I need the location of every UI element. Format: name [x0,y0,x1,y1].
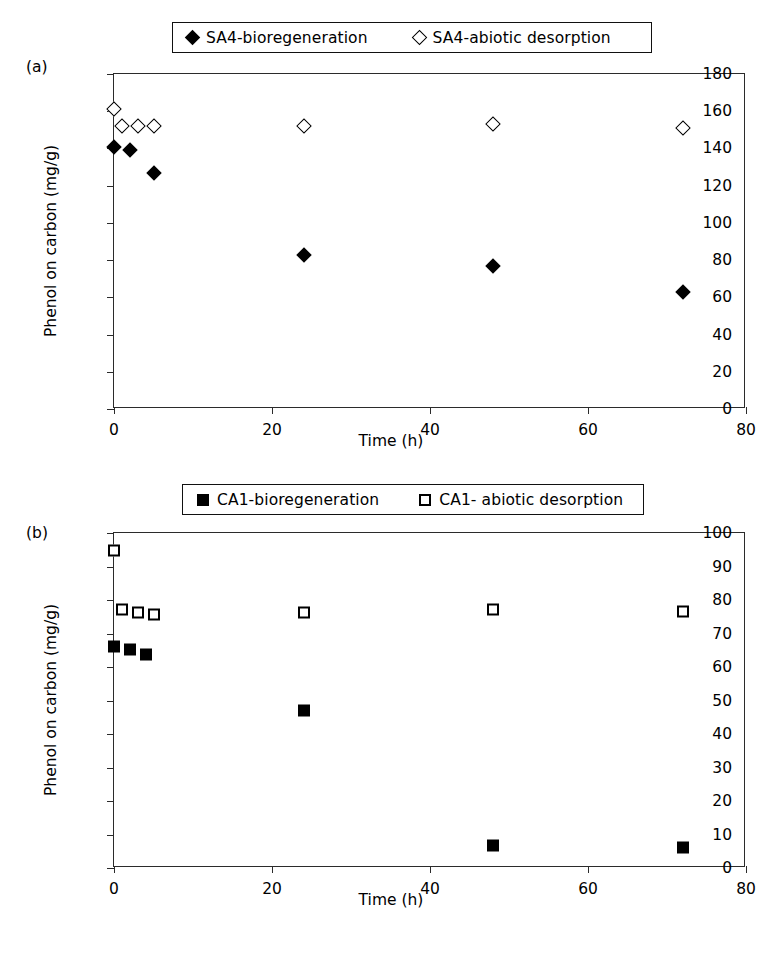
panel-b: CA1-bioregeneration CA1- abiotic desorpt… [0,462,782,958]
y-axis-tick [107,74,114,75]
x-axis-tick [430,866,431,873]
square-open-icon [108,545,120,557]
legend-entry-ca1-abiotic-desorption: CA1- abiotic desorption [419,491,623,509]
x-axis-tick [114,866,115,873]
data-point [116,601,128,620]
square-filled-icon [140,649,152,661]
plot-area-b: 0102030405060708090100020406080 [113,532,745,867]
y-axis-tick [107,667,114,668]
diamond-open-icon [411,30,427,46]
x-axis-tick [272,866,273,873]
y-axis-tick [107,868,114,869]
legend-label: SA4-abiotic desorption [433,29,611,47]
legend-panel-a: SA4-bioregeneration SA4-abiotic desorpti… [172,22,652,53]
y-axis-tick-label: 40 [712,326,732,344]
data-point [132,117,143,136]
diamond-filled-icon [146,165,162,181]
diamond-open-icon [130,118,146,134]
square-open-icon [419,494,431,506]
data-point [487,601,499,620]
y-axis-tick-label: 50 [712,692,732,710]
square-filled-icon [124,644,136,656]
legend-entry-sa4-bioregeneration: SA4-bioregeneration [187,29,368,47]
legend-panel-b: CA1-bioregeneration CA1- abiotic desorpt… [182,484,644,515]
y-axis-tick-label: 10 [712,826,732,844]
square-open-icon [677,605,689,617]
square-open-icon [148,609,160,621]
y-axis-tick-label: 120 [702,177,732,195]
y-axis-tick [107,372,114,373]
panel-a: SA4-bioregeneration SA4-abiotic desorpti… [0,0,782,470]
y-axis-tick-label: 30 [712,759,732,777]
data-point [108,637,120,656]
panel-label-b: (b) [26,524,48,542]
y-axis-tick [107,600,114,601]
data-point [298,604,310,623]
data-point [132,604,144,623]
y-axis-tick [107,409,114,410]
y-axis-title-a: Phenol on carbon (mg/g) [42,144,60,336]
y-axis-tick-label: 80 [712,591,732,609]
y-axis-tick-label: 100 [702,524,732,542]
diamond-open-icon [485,116,501,132]
y-axis-tick-label: 0 [722,400,732,418]
x-axis-tick [588,407,589,414]
square-open-icon [116,604,128,616]
diamond-open-icon [146,118,162,134]
data-point [148,606,160,625]
data-point [677,838,689,857]
x-axis-tick [430,407,431,414]
data-point [677,118,688,137]
legend-label: SA4-bioregeneration [206,29,368,47]
y-axis-title-b: Phenol on carbon (mg/g) [42,603,60,795]
y-axis-tick-label: 40 [712,725,732,743]
x-axis-title-b: Time (h) [0,891,782,909]
square-open-icon [487,604,499,616]
x-axis-tick [588,866,589,873]
diamond-filled-icon [122,143,138,159]
y-axis-tick [107,335,114,336]
data-point [109,137,120,156]
data-point [298,701,310,720]
y-axis-tick-label: 60 [712,658,732,676]
data-point [124,141,135,160]
panel-label-a: (a) [26,58,48,76]
data-point [488,256,499,275]
square-filled-icon [677,841,689,853]
data-point [488,115,499,134]
square-filled-icon [487,840,499,852]
data-point [298,117,309,136]
diamond-filled-icon [675,284,691,300]
plot-area-a: 020406080100120140160180020406080 [113,73,745,408]
legend-label: CA1- abiotic desorption [439,491,623,509]
data-point [487,837,499,856]
x-axis-tick [746,407,747,414]
square-open-icon [132,607,144,619]
diamond-filled-icon [485,258,501,274]
y-axis-tick-label: 90 [712,558,732,576]
legend-entry-sa4-abiotic-desorption: SA4-abiotic desorption [414,29,611,47]
y-axis-tick [107,260,114,261]
y-axis-tick [107,734,114,735]
square-open-icon [298,607,310,619]
y-axis-tick-label: 20 [712,363,732,381]
diamond-open-icon [296,118,312,134]
y-axis-tick-label: 100 [702,214,732,232]
y-axis-tick [107,801,114,802]
diamond-filled-icon [185,30,201,46]
y-axis-tick [107,533,114,534]
y-axis-tick [107,223,114,224]
diamond-filled-icon [296,247,312,263]
data-point [148,163,159,182]
data-point [298,245,309,264]
diamond-filled-icon [106,139,122,155]
diamond-open-icon [114,118,130,134]
data-point [116,117,127,136]
figure: SA4-bioregeneration SA4-abiotic desorpti… [0,0,782,958]
data-point [148,117,159,136]
y-axis-tick-label: 0 [722,859,732,877]
y-axis-tick-label: 140 [702,139,732,157]
y-axis-tick [107,835,114,836]
y-axis-tick-label: 20 [712,792,732,810]
data-point [677,282,688,301]
